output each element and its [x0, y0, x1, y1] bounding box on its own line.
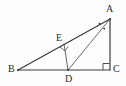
vertex-dot-B — [17, 69, 19, 71]
segment-AD — [68, 19, 110, 70]
vertex-label-C: C — [113, 64, 120, 74]
vertex-label-E: E — [56, 33, 62, 43]
equal-angle-dot-1-icon — [99, 23, 101, 25]
vertex-dot-D — [67, 69, 69, 71]
geometry-figure: A B C D E — [0, 0, 126, 86]
equal-angle-dot-2-icon — [103, 28, 105, 30]
vertex-label-A: A — [106, 4, 113, 14]
right-angle-C-icon — [103, 64, 109, 71]
vertex-label-B: B — [8, 64, 15, 74]
right-angle-E-icon — [60, 47, 68, 51]
vertex-label-D: D — [65, 74, 72, 84]
vertex-dot-A — [109, 18, 111, 20]
